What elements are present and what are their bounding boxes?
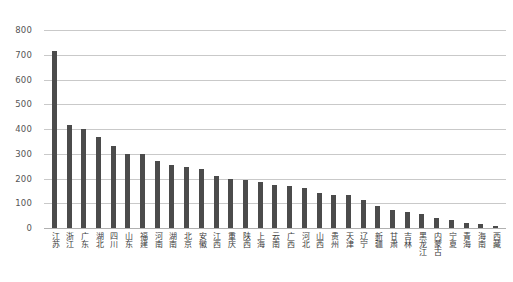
bar-slot <box>179 30 194 228</box>
x-axis: 江苏浙江广东湖北四川山东福建河南湖南北京安徽江西重庆陕西上海云南广西河北山西贵州… <box>44 232 506 280</box>
bar[interactable] <box>184 167 189 228</box>
bar-slot <box>121 30 136 228</box>
x-tick-slot: 广西 <box>282 232 297 280</box>
x-tick-label: 新疆 <box>373 232 383 280</box>
x-tick-label: 河南 <box>153 232 163 280</box>
bar-slot <box>429 30 444 228</box>
y-tick-label: 200 <box>15 174 32 184</box>
bar-slot <box>150 30 165 228</box>
bar-slot <box>91 30 106 228</box>
x-tick-slot: 湖南 <box>165 232 180 280</box>
bar[interactable] <box>272 185 277 228</box>
bar-series <box>44 30 506 228</box>
y-tick-label: 600 <box>15 75 32 85</box>
x-tick-label: 陕西 <box>241 232 251 280</box>
x-tick-slot: 吉林 <box>400 232 415 280</box>
bar[interactable] <box>155 161 160 228</box>
bar[interactable] <box>52 51 57 228</box>
x-tick-slot: 甘肃 <box>385 232 400 280</box>
x-tick-label: 北京 <box>182 232 192 280</box>
bar-slot <box>76 30 91 228</box>
gridline-0 <box>44 228 506 229</box>
bar[interactable] <box>67 125 72 228</box>
bar-slot <box>47 30 62 228</box>
x-tick-slot: 山西 <box>312 232 327 280</box>
bar[interactable] <box>287 186 292 228</box>
x-tick-slot: 山东 <box>121 232 136 280</box>
y-tick-label: 300 <box>15 149 32 159</box>
x-tick-slot: 北京 <box>179 232 194 280</box>
bar[interactable] <box>331 195 336 228</box>
bar[interactable] <box>243 180 248 228</box>
bar-slot <box>223 30 238 228</box>
x-tick-label: 湖北 <box>94 232 104 280</box>
bar[interactable] <box>361 200 366 228</box>
x-tick-label: 江西 <box>211 232 221 280</box>
bar[interactable] <box>302 188 307 228</box>
bar[interactable] <box>405 212 410 228</box>
x-tick-label: 贵州 <box>329 232 339 280</box>
bar[interactable] <box>214 176 219 228</box>
x-tick-label: 广西 <box>285 232 295 280</box>
x-tick-label: 海南 <box>476 232 486 280</box>
x-tick-label: 西藏 <box>491 232 501 280</box>
x-tick-label: 湖南 <box>167 232 177 280</box>
bar-slot <box>297 30 312 228</box>
bar[interactable] <box>169 165 174 228</box>
bar[interactable] <box>464 223 469 228</box>
x-tick-slot: 河南 <box>150 232 165 280</box>
bar[interactable] <box>125 154 130 228</box>
x-tick-label: 重庆 <box>226 232 236 280</box>
x-tick-label: 安徽 <box>197 232 207 280</box>
bar-slot <box>385 30 400 228</box>
bar[interactable] <box>449 220 454 228</box>
bar[interactable] <box>434 218 439 228</box>
x-tick-label: 青海 <box>461 232 471 280</box>
x-tick-slot: 上海 <box>253 232 268 280</box>
x-tick-slot: 江西 <box>209 232 224 280</box>
bar[interactable] <box>493 226 498 228</box>
y-tick-label: 800 <box>15 25 32 35</box>
x-tick-slot: 云南 <box>268 232 283 280</box>
x-tick-slot: 内蒙古 <box>429 232 444 280</box>
x-tick-label: 黑龙江 <box>417 232 427 280</box>
x-tick-label: 浙江 <box>64 232 74 280</box>
bar-slot <box>356 30 371 228</box>
bar[interactable] <box>390 210 395 228</box>
bar[interactable] <box>478 224 483 228</box>
x-tick-slot: 黑龙江 <box>415 232 430 280</box>
bar[interactable] <box>140 154 145 228</box>
bar[interactable] <box>375 206 380 228</box>
y-tick-label: 700 <box>15 50 32 60</box>
bar[interactable] <box>258 182 263 228</box>
bar-slot <box>209 30 224 228</box>
bar[interactable] <box>346 195 351 228</box>
x-tick-label: 福建 <box>138 232 148 280</box>
bar-slot <box>488 30 503 228</box>
x-tick-label: 山东 <box>123 232 133 280</box>
x-tick-slot: 陕西 <box>238 232 253 280</box>
x-tick-slot: 辽宁 <box>356 232 371 280</box>
bar[interactable] <box>96 137 101 228</box>
plot-area <box>44 30 506 228</box>
bar-slot <box>194 30 209 228</box>
bar[interactable] <box>81 129 86 228</box>
x-tick-label: 云南 <box>270 232 280 280</box>
y-tick-label: 100 <box>15 198 32 208</box>
x-tick-slot: 天津 <box>341 232 356 280</box>
x-tick-slot: 海南 <box>473 232 488 280</box>
bar[interactable] <box>419 214 424 228</box>
bar[interactable] <box>199 169 204 228</box>
bar[interactable] <box>111 146 116 228</box>
x-tick-label: 四川 <box>108 232 118 280</box>
bar-slot <box>415 30 430 228</box>
x-tick-slot: 青海 <box>459 232 474 280</box>
bar[interactable] <box>228 179 233 229</box>
bar[interactable] <box>317 193 322 228</box>
x-tick-slot: 重庆 <box>223 232 238 280</box>
y-tick-label: 500 <box>15 99 32 109</box>
x-tick-label: 内蒙古 <box>432 232 442 280</box>
bar-slot <box>135 30 150 228</box>
bar-slot <box>341 30 356 228</box>
x-tick-slot: 广东 <box>76 232 91 280</box>
